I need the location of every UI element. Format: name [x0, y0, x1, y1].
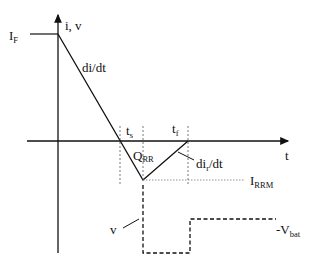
recovery-slope-label: dir/dt	[196, 156, 223, 173]
recovered-charge-label: QRR	[133, 148, 154, 164]
y-axis-label: i, v	[65, 18, 82, 33]
fall-slope-label: di/dt	[82, 60, 106, 75]
voltage-waveform	[143, 185, 276, 253]
peak-reverse-current-label: IRRM	[250, 173, 274, 190]
recovery-slope-leader	[178, 152, 194, 160]
t-axis-label: t	[285, 148, 289, 163]
fall-time-label: tf	[172, 121, 179, 138]
current-waveform	[58, 34, 188, 180]
voltage-label: v	[110, 222, 117, 237]
storage-time-label: ts	[126, 123, 133, 140]
reverse-recovery-diagram: i, v t IF di/dt ts tf QRR dir/dt IRRM v …	[0, 0, 316, 266]
forward-current-label: IF	[9, 28, 18, 45]
voltage-leader	[123, 219, 139, 228]
battery-voltage-label: -Vbat	[276, 222, 301, 239]
